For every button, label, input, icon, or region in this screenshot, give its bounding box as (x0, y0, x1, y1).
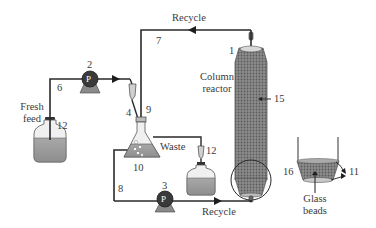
recycle-label-bottom: Recycle (202, 206, 236, 218)
waste-bottle (187, 162, 215, 195)
label-12-feed: 12 (57, 120, 68, 132)
label-12-waste: 12 (206, 145, 217, 157)
label-9: 9 (146, 104, 151, 116)
pump-3-symbol: P (161, 193, 166, 205)
glass-beads-detail (297, 137, 346, 193)
column-reactor (231, 46, 271, 202)
label-1: 1 (229, 45, 234, 57)
label-7: 7 (156, 35, 161, 47)
recycle-line-bottom (114, 150, 251, 202)
label-4: 4 (126, 107, 131, 119)
recycle-arrow-icon (188, 26, 196, 34)
label-10: 10 (133, 162, 144, 174)
label-3: 3 (162, 180, 167, 192)
label-6: 6 (57, 82, 62, 94)
column-reactor-label-line2: reactor (192, 83, 242, 95)
glass-beads-label: Glass beads (298, 193, 332, 217)
label-15: 15 (274, 93, 285, 105)
label-11: 11 (349, 166, 359, 178)
pump-2-symbol: P (86, 73, 91, 85)
glass-beads-label-line2: beads (298, 205, 332, 217)
column-reactor-label: Column reactor (192, 71, 242, 95)
fresh-feed-label-line1: Fresh (15, 101, 49, 113)
feed-arrow-icon (112, 75, 120, 83)
fresh-feed-label: Fresh feed (15, 101, 49, 125)
waste-label: Waste (160, 141, 185, 153)
column-reactor-label-line1: Column (192, 71, 242, 83)
label-16: 16 (283, 166, 294, 178)
recycle-arrow-bottom-icon (214, 197, 222, 205)
fresh-feed-label-line2: feed (15, 113, 49, 125)
label-2: 2 (87, 59, 92, 71)
label-8: 8 (118, 183, 123, 195)
recycle-label-top: Recycle (172, 12, 206, 24)
glass-beads-label-line1: Glass (298, 193, 332, 205)
